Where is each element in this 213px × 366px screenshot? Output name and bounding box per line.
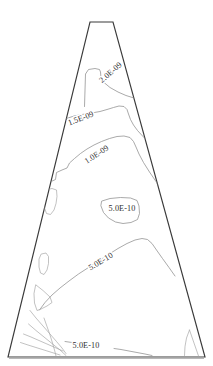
contour-label-group: 5.0E-105.0E-10 [73, 341, 100, 350]
contour-plot-svg: 2.0E-092.0E-091.5E-091.5E-091.0E-091.0E-… [0, 0, 213, 366]
contour-label-label-5p0em10-bottom: 5.0E-10 [73, 341, 100, 350]
contour-label-label-5p0em10-mid: 5.0E-10 [109, 204, 136, 213]
contour-plot-canvas: 2.0E-092.0E-091.5E-091.5E-091.0E-091.0E-… [0, 0, 213, 366]
contour-label-group: 5.0E-105.0E-10 [109, 204, 136, 213]
